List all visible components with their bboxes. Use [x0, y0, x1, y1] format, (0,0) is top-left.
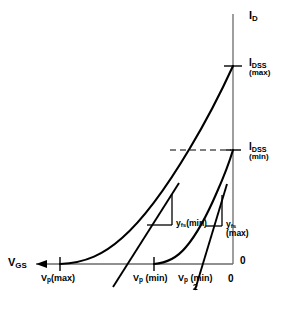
x-tick-label-vp-min: Vp (min) — [133, 274, 167, 283]
x-tick-label-vp-max: Vp(max) — [41, 274, 75, 283]
origin-label-right: 0 — [240, 256, 246, 267]
annotation-yfs-max: yfs (max) — [226, 220, 249, 238]
y-tick-label-idss-max: IDSS (max) — [249, 58, 270, 77]
jfet-transfer-characteristic-figure: ID IDSS (max) IDSS (min) VGS Vp(max) Vp … — [0, 0, 292, 310]
x-tick-label-vp-min-half: Vp (min) 2 — [178, 274, 212, 293]
y-axis-label: ID — [249, 10, 258, 22]
left-arrow-icon — [36, 260, 47, 268]
curve-idss-min — [154, 150, 233, 264]
axis-group — [36, 14, 233, 268]
tangent-yfs-min — [113, 183, 179, 287]
y-tick-label-idss-min: IDSS (min) — [249, 142, 269, 161]
annotation-yfs-min: yfs(min) — [176, 219, 207, 228]
origin-label-below: 0 — [228, 274, 234, 285]
x-axis-label: VGS — [8, 257, 27, 269]
